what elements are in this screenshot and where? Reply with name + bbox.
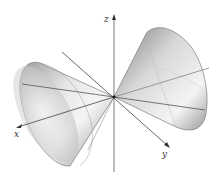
- origin-point: [113, 96, 116, 99]
- x-axis-label: x: [14, 129, 19, 139]
- right-nappe: [114, 28, 207, 130]
- double-cone-diagram: z x y: [0, 0, 220, 179]
- x-axis-arrowhead-icon: [16, 124, 22, 128]
- left-nappe: [0, 56, 114, 172]
- z-axis-label: z: [103, 14, 109, 24]
- z-axis-arrowhead-icon: [112, 14, 116, 20]
- y-axis-label: y: [161, 149, 168, 159]
